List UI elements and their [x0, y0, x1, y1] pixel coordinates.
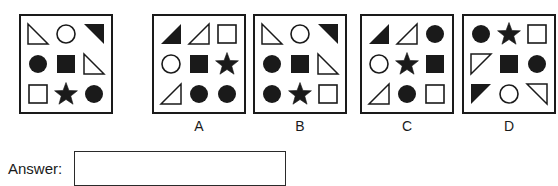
square-icon — [53, 51, 79, 77]
triangle-icon — [158, 81, 184, 107]
circle-icon — [81, 81, 107, 107]
shape-cell-outline-triangle — [467, 49, 495, 79]
shape-cell-solid-circle — [80, 79, 108, 109]
shape-cell-solid-square — [286, 49, 314, 79]
star-icon — [287, 81, 313, 107]
circle-icon — [259, 51, 285, 77]
shape-cell-solid-star — [52, 79, 80, 109]
square-icon — [287, 51, 313, 77]
square-icon — [422, 81, 448, 107]
triangle-icon — [186, 21, 212, 47]
shape-cell-outline-triangle — [393, 19, 421, 49]
circle-icon — [53, 21, 79, 47]
star-icon — [496, 21, 522, 47]
shape-cell-outline-circle — [495, 79, 523, 109]
circle-icon — [25, 51, 51, 77]
circle-icon — [259, 81, 285, 107]
shape-cell-solid-star — [393, 49, 421, 79]
shape-cell-outline-square — [213, 19, 241, 49]
square-icon — [496, 51, 522, 77]
star-icon — [394, 51, 420, 77]
shape-cell-solid-triangle — [314, 19, 342, 49]
square-icon — [422, 51, 448, 77]
option-label-d: D — [462, 118, 556, 134]
star-icon — [214, 51, 240, 77]
shape-cell-outline-triangle — [523, 79, 551, 109]
shape-cell-outline-triangle — [80, 49, 108, 79]
circle-icon — [394, 81, 420, 107]
triangle-icon — [25, 21, 51, 47]
option-panel-a[interactable] — [152, 14, 246, 114]
shape-cell-outline-square — [24, 79, 52, 109]
shape-cell-outline-circle — [286, 19, 314, 49]
circle-icon — [186, 81, 212, 107]
triangle-icon — [81, 51, 107, 77]
shape-cell-outline-triangle — [185, 19, 213, 49]
option-panel-a-grid — [154, 16, 244, 112]
circle-icon — [158, 51, 184, 77]
triangle-icon — [81, 21, 107, 47]
shape-cell-outline-circle — [157, 49, 185, 79]
shape-cell-solid-star — [286, 79, 314, 109]
puzzle-row: A B C D — [0, 0, 558, 140]
shape-cell-outline-triangle — [157, 79, 185, 109]
square-icon — [315, 81, 341, 107]
option-panel-b-grid — [255, 16, 345, 112]
square-icon — [214, 21, 240, 47]
option-panel-c-grid — [362, 16, 452, 112]
shape-cell-solid-circle — [258, 79, 286, 109]
option-panel-d-grid — [464, 16, 554, 112]
question-panel-grid — [21, 16, 111, 112]
shape-cell-solid-triangle — [365, 19, 393, 49]
answer-row: Answer: — [0, 148, 558, 186]
triangle-icon — [468, 81, 494, 107]
shape-cell-solid-square — [185, 49, 213, 79]
triangle-icon — [468, 51, 494, 77]
shape-cell-outline-triangle — [258, 19, 286, 49]
option-panel-d[interactable] — [462, 14, 556, 114]
shape-cell-solid-circle — [421, 19, 449, 49]
circle-icon — [496, 81, 522, 107]
triangle-icon — [394, 21, 420, 47]
shape-cell-solid-circle — [467, 19, 495, 49]
shape-cell-outline-triangle — [365, 79, 393, 109]
option-label-c: C — [360, 118, 454, 134]
star-icon — [53, 81, 79, 107]
triangle-icon — [158, 21, 184, 47]
shape-cell-solid-circle — [185, 79, 213, 109]
circle-icon — [366, 51, 392, 77]
circle-icon — [524, 51, 550, 77]
shape-cell-outline-circle — [52, 19, 80, 49]
answer-label: Answer: — [8, 160, 62, 177]
shape-cell-solid-triangle — [467, 79, 495, 109]
shape-cell-outline-triangle — [314, 49, 342, 79]
square-icon — [524, 21, 550, 47]
shape-cell-solid-circle — [213, 79, 241, 109]
triangle-icon — [366, 21, 392, 47]
shape-cell-outline-square — [523, 19, 551, 49]
shape-cell-outline-circle — [365, 49, 393, 79]
shape-cell-solid-star — [213, 49, 241, 79]
shape-cell-solid-circle — [24, 49, 52, 79]
answer-input[interactable] — [74, 151, 286, 186]
circle-icon — [287, 21, 313, 47]
shape-cell-solid-triangle — [157, 19, 185, 49]
shape-cell-solid-circle — [258, 49, 286, 79]
shape-cell-outline-square — [314, 79, 342, 109]
shape-cell-solid-square — [421, 49, 449, 79]
option-label-a: A — [152, 118, 246, 134]
square-icon — [25, 81, 51, 107]
shape-cell-outline-square — [421, 79, 449, 109]
option-panel-b[interactable] — [253, 14, 347, 114]
shape-cell-solid-circle — [393, 79, 421, 109]
circle-icon — [214, 81, 240, 107]
option-label-b: B — [253, 118, 347, 134]
shape-cell-solid-star — [495, 19, 523, 49]
triangle-icon — [315, 21, 341, 47]
shape-cell-outline-triangle — [24, 19, 52, 49]
triangle-icon — [366, 81, 392, 107]
question-panel — [19, 14, 113, 114]
option-panel-c[interactable] — [360, 14, 454, 114]
triangle-icon — [259, 21, 285, 47]
square-icon — [186, 51, 212, 77]
